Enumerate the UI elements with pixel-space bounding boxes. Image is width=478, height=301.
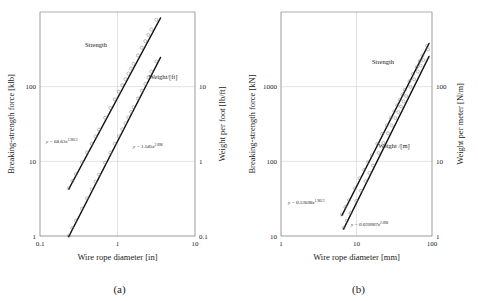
panel-caption-a: (a) [0, 283, 239, 295]
ytick-left-a-0: 1 [33, 233, 37, 241]
ytick-left-b-2: 1000 [263, 83, 278, 91]
xaxis-title-a: Wire rope diameter [in] [77, 252, 157, 262]
ytick-right-a-2: 10 [199, 83, 207, 91]
ytick-left-a-2: 100 [26, 83, 37, 91]
xtick-b-2: 100 [427, 240, 438, 248]
panel-a-plot: Strength Weight/[ft] y = 68.63x1.9613 y … [0, 0, 239, 301]
panel-b-plot: Strength Weight /[m] y = 0.53698x1.9613 … [239, 0, 478, 301]
panel-a: Strength Weight/[ft] y = 68.63x1.9613 y … [0, 0, 239, 301]
xtick-a-1: 1 [116, 240, 120, 248]
ytick-right-b-0: 1 [436, 233, 440, 241]
ytick-right-a-1: 1 [199, 158, 203, 166]
wire-rope-figure: Strength Weight/[ft] y = 68.63x1.9613 y … [0, 0, 478, 301]
ytick-right-b-1: 10 [436, 158, 444, 166]
ytick-left-b-1: 100 [267, 158, 278, 166]
xtick-a-2: 10 [192, 240, 200, 248]
yaxis-title-left-a: Breaking-strength force [klb] [6, 74, 16, 174]
xtick-a-0: 0.1 [36, 240, 45, 248]
series-label-strength-a: Strength [85, 41, 108, 48]
yaxis-title-right-a: Weight per foot [lb/ft] [217, 86, 227, 161]
ytick-right-b-2: 100 [436, 83, 447, 91]
series-label-weight-a: Weight/[ft] [149, 73, 178, 81]
yaxis-title-left-b: Breaking-strength force [kN] [247, 74, 257, 173]
ytick-left-b-0: 10 [270, 233, 278, 241]
yaxis-title-right-b: Weight per meter [N/m] [455, 83, 465, 165]
panel-b: Strength Weight /[m] y = 0.53698x1.9613 … [239, 0, 478, 301]
panel-caption-b: (b) [239, 283, 478, 295]
xtick-b-0: 1 [279, 240, 283, 248]
series-label-strength-b: Strength [372, 58, 395, 65]
ytick-right-a-0: 0.1 [199, 233, 208, 241]
xaxis-title-b: Wire rope diameter [mm] [313, 252, 400, 262]
xtick-b-1: 10 [353, 240, 361, 248]
series-label-weight-b: Weight /[m] [378, 142, 409, 150]
ytick-left-a-1: 10 [29, 158, 37, 166]
